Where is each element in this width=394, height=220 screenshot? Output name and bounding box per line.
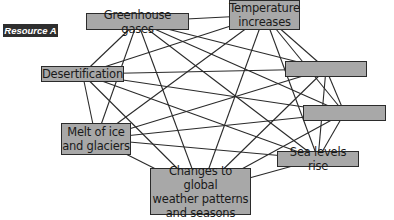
node-desertification: Desertification — [41, 66, 124, 82]
node-blank-2[interactable] — [303, 105, 386, 121]
node-changes-weather: Changes to global weather patterns and s… — [150, 168, 251, 215]
node-temperature-increases: Temperature increases — [229, 0, 300, 30]
node-greenhouse-gases: Greenhouse gases — [86, 13, 189, 30]
resource-label: Resource A — [3, 24, 58, 37]
node-sea-levels-rise: Sea levels rise — [277, 151, 359, 167]
node-blank-1[interactable] — [285, 61, 367, 77]
node-melt-ice: Melt of ice and glaciers — [61, 123, 131, 155]
edge-temperature-sea — [265, 15, 319, 159]
